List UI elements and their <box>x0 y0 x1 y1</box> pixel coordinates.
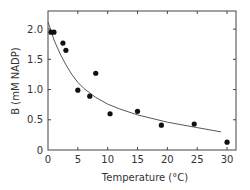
x-tick-label: 30 <box>221 154 234 165</box>
y-tick-label: 0 <box>37 145 43 156</box>
data-point <box>107 111 112 116</box>
y-tick-label: 1.5 <box>27 54 43 65</box>
data-point <box>87 94 92 99</box>
x-tick-label: 25 <box>191 154 204 165</box>
data-point <box>75 88 80 93</box>
data-points <box>48 30 229 145</box>
data-point <box>224 140 229 145</box>
chart: 05101520253000.51.01.52.0 Temperature (°… <box>0 0 250 190</box>
axis-tick-labels: 05101520253000.51.01.52.0 <box>27 24 233 165</box>
y-tick-label: 0.5 <box>27 114 43 125</box>
data-point <box>159 123 164 128</box>
data-point <box>135 109 140 114</box>
x-tick-label: 20 <box>161 154 174 165</box>
x-tick-label: 5 <box>75 154 81 165</box>
x-axis-label: Temperature (°C) <box>101 172 188 183</box>
fitted-curve <box>48 22 221 132</box>
y-tick-label: 1.0 <box>27 84 43 95</box>
data-point <box>93 71 98 76</box>
x-tick-label: 10 <box>101 154 114 165</box>
data-point <box>63 48 68 53</box>
data-point <box>60 40 65 45</box>
data-point <box>51 30 56 35</box>
y-tick-label: 2.0 <box>27 24 43 35</box>
x-tick-label: 15 <box>131 154 144 165</box>
x-tick-label: 0 <box>45 154 51 165</box>
y-axis-label: B (mM NADP) <box>10 47 21 115</box>
data-point <box>192 121 197 126</box>
